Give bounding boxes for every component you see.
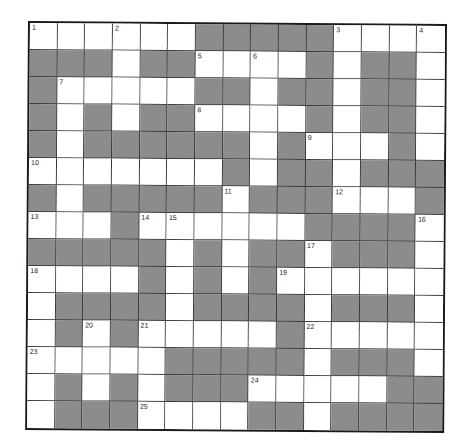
answer-cell[interactable] xyxy=(195,159,223,186)
answer-cell[interactable] xyxy=(221,321,249,348)
answer-cell[interactable]: 2 xyxy=(113,24,141,51)
answer-cell[interactable] xyxy=(84,212,112,239)
answer-cell[interactable] xyxy=(222,213,250,240)
answer-cell[interactable] xyxy=(417,80,445,107)
answer-cell[interactable] xyxy=(140,78,168,105)
answer-cell[interactable] xyxy=(249,322,277,349)
answer-cell[interactable]: 22 xyxy=(304,322,332,349)
answer-cell[interactable] xyxy=(140,24,168,51)
answer-cell[interactable]: 13 xyxy=(28,212,56,239)
answer-cell[interactable] xyxy=(276,376,304,403)
answer-cell[interactable] xyxy=(57,131,85,158)
answer-cell[interactable] xyxy=(85,23,113,50)
answer-cell[interactable] xyxy=(304,349,332,376)
answer-cell[interactable]: 23 xyxy=(28,347,56,374)
answer-cell[interactable] xyxy=(83,374,111,401)
answer-cell[interactable] xyxy=(222,240,250,267)
answer-cell[interactable] xyxy=(304,376,332,403)
answer-cell[interactable] xyxy=(112,105,140,132)
answer-cell[interactable]: 1 xyxy=(30,23,58,50)
answer-cell[interactable] xyxy=(250,133,278,160)
answer-cell[interactable] xyxy=(387,323,415,350)
answer-cell[interactable] xyxy=(360,268,388,295)
answer-cell[interactable] xyxy=(222,267,250,294)
answer-cell[interactable] xyxy=(332,376,360,403)
answer-cell[interactable] xyxy=(332,322,360,349)
answer-cell[interactable] xyxy=(193,402,221,429)
answer-cell[interactable] xyxy=(361,187,389,214)
answer-cell[interactable] xyxy=(138,375,166,402)
answer-cell[interactable] xyxy=(305,295,333,322)
answer-cell[interactable]: 9 xyxy=(306,133,334,160)
answer-cell[interactable] xyxy=(55,347,83,374)
answer-cell[interactable] xyxy=(113,51,141,78)
answer-cell[interactable]: 24 xyxy=(249,376,277,403)
answer-cell[interactable]: 10 xyxy=(29,158,57,185)
answer-cell[interactable]: 3 xyxy=(334,25,362,52)
answer-cell[interactable]: 16 xyxy=(416,215,444,242)
answer-cell[interactable] xyxy=(251,79,279,106)
answer-cell[interactable] xyxy=(389,26,417,53)
answer-cell[interactable] xyxy=(305,268,333,295)
answer-cell[interactable] xyxy=(334,106,362,133)
answer-cell[interactable] xyxy=(304,403,332,430)
answer-cell[interactable]: 19 xyxy=(277,268,305,295)
answer-cell[interactable]: 21 xyxy=(138,321,166,348)
answer-cell[interactable] xyxy=(27,401,55,428)
answer-cell[interactable] xyxy=(416,134,444,161)
answer-cell[interactable] xyxy=(194,213,222,240)
answer-cell[interactable] xyxy=(415,350,443,377)
answer-cell[interactable] xyxy=(83,266,111,293)
answer-cell[interactable] xyxy=(388,188,416,215)
answer-cell[interactable]: 15 xyxy=(167,213,195,240)
answer-cell[interactable] xyxy=(138,348,166,375)
answer-cell[interactable]: 25 xyxy=(138,402,166,429)
answer-cell[interactable] xyxy=(166,321,194,348)
answer-cell[interactable]: 17 xyxy=(305,241,333,268)
answer-cell[interactable] xyxy=(112,159,140,186)
answer-cell[interactable] xyxy=(56,212,84,239)
answer-cell[interactable] xyxy=(359,376,387,403)
answer-cell[interactable]: 20 xyxy=(83,320,111,347)
answer-cell[interactable] xyxy=(417,53,445,80)
answer-cell[interactable] xyxy=(112,78,140,105)
answer-cell[interactable] xyxy=(168,78,196,105)
answer-cell[interactable] xyxy=(194,321,222,348)
answer-cell[interactable] xyxy=(56,266,84,293)
answer-cell[interactable] xyxy=(57,158,85,185)
answer-cell[interactable] xyxy=(360,322,388,349)
answer-cell[interactable]: 4 xyxy=(417,26,445,53)
answer-cell[interactable] xyxy=(57,23,85,50)
answer-cell[interactable] xyxy=(166,267,194,294)
answer-cell[interactable]: 8 xyxy=(195,105,223,132)
answer-cell[interactable] xyxy=(28,293,56,320)
answer-cell[interactable] xyxy=(277,214,305,241)
answer-cell[interactable] xyxy=(56,185,84,212)
answer-cell[interactable]: 7 xyxy=(57,77,85,104)
answer-cell[interactable] xyxy=(223,105,251,132)
answer-cell[interactable] xyxy=(332,268,360,295)
answer-cell[interactable] xyxy=(415,296,443,323)
answer-cell[interactable] xyxy=(28,320,56,347)
answer-cell[interactable] xyxy=(362,25,390,52)
answer-cell[interactable] xyxy=(415,269,443,296)
answer-cell[interactable] xyxy=(250,160,278,187)
answer-cell[interactable] xyxy=(221,402,249,429)
answer-cell[interactable] xyxy=(278,106,306,133)
answer-cell[interactable] xyxy=(111,348,139,375)
answer-cell[interactable] xyxy=(334,52,362,79)
answer-cell[interactable] xyxy=(388,269,416,296)
answer-cell[interactable] xyxy=(415,323,443,350)
answer-cell[interactable] xyxy=(84,158,112,185)
answer-cell[interactable] xyxy=(416,242,444,269)
answer-cell[interactable] xyxy=(111,267,139,294)
answer-cell[interactable] xyxy=(251,106,279,133)
answer-cell[interactable] xyxy=(333,160,361,187)
answer-cell[interactable] xyxy=(361,133,389,160)
answer-cell[interactable] xyxy=(334,79,362,106)
answer-cell[interactable] xyxy=(85,77,113,104)
answer-cell[interactable] xyxy=(250,214,278,241)
answer-cell[interactable]: 18 xyxy=(28,266,56,293)
answer-cell[interactable] xyxy=(167,240,195,267)
answer-cell[interactable]: 11 xyxy=(222,186,250,213)
